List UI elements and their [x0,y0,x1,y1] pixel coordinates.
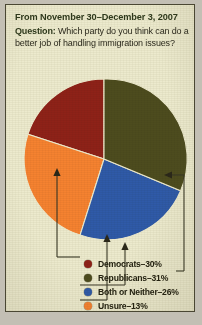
poll-infographic: From November 30–December 3, 2007 Questi… [0,0,202,325]
legend-swatch-democrats [84,260,92,268]
legend-label-republicans: Republicans–31% [98,273,168,283]
legend-swatch-republicans [84,274,92,282]
legend-item-republicans: Republicans–31% [84,271,195,285]
legend-swatch-unsure [84,302,92,310]
legend-item-both-or-neither: Both or Neither–26% [84,285,195,299]
legend-item-unsure: Unsure–13% [84,299,195,312]
poll-panel: From November 30–December 3, 2007 Questi… [5,4,195,312]
legend-label-both-or-neither: Both or Neither–26% [98,287,179,297]
legend-item-democrats: Democrats–30% [84,257,195,271]
legend-label-democrats: Democrats–30% [98,259,162,269]
pie-slices [24,79,187,240]
legend-swatch-both-or-neither [84,288,92,296]
chart-legend: Democrats–30% Republicans–31% Both or Ne… [84,257,195,312]
legend-label-unsure: Unsure–13% [98,301,148,311]
arrowhead-both-or-neither [121,242,128,250]
